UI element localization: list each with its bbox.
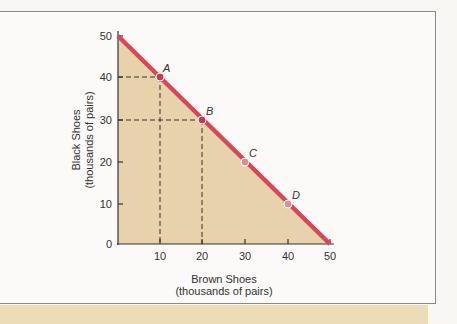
x-tick: 20 [196, 250, 208, 262]
x-axis-label: Brown Shoes [191, 273, 257, 285]
y-tick: 40 [100, 71, 112, 83]
x-tick: 10 [154, 250, 166, 262]
y-axis-sublabel: (thousands of pairs) [83, 91, 95, 188]
point-d-label: D [292, 189, 300, 201]
x-tick: 40 [282, 250, 294, 262]
point-c-label: C [249, 147, 257, 159]
y-tick: 50 [100, 30, 112, 42]
y-tick: 0 [106, 238, 112, 250]
y-tick: 10 [100, 198, 112, 210]
point-a-label: A [162, 62, 170, 74]
y-tick: 20 [100, 156, 112, 168]
x-tick: 50 [324, 250, 336, 262]
point-b-label: B [206, 105, 213, 117]
x-axis-sublabel: (thousands of pairs) [175, 285, 272, 297]
y-tick: 30 [100, 114, 112, 126]
y-axis-label: Black Shoes [70, 109, 82, 171]
ppf-chart: A B C D 50 40 30 20 10 0 10 20 30 40 50 … [0, 0, 457, 324]
x-tick: 30 [239, 250, 251, 262]
